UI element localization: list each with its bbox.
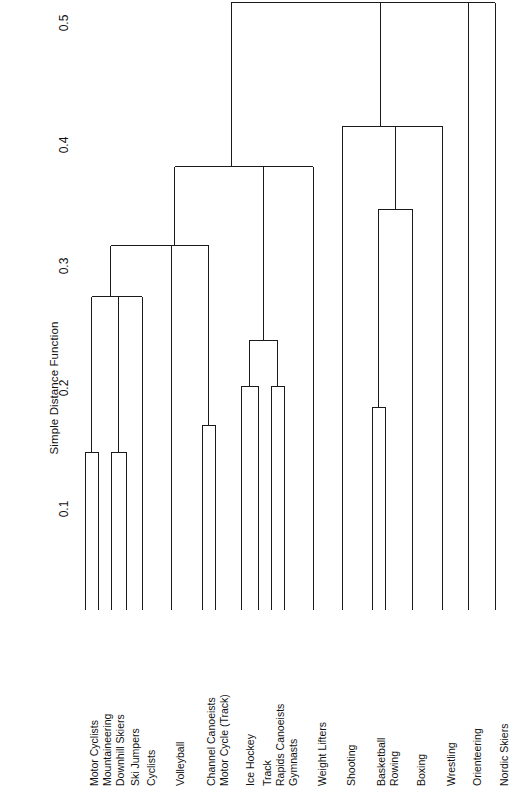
leaf-label: Ice Hockey <box>245 734 256 786</box>
leaf-label: Shooting <box>346 745 357 786</box>
y-tick-label-3: 0.2 <box>57 368 71 408</box>
leaf-label: Track <box>262 760 273 786</box>
y-tick-label-4: 0.1 <box>57 489 71 529</box>
leaf-label: Motor Cyclists <box>89 720 100 786</box>
dendrogram-canvas <box>0 0 514 792</box>
y-tick-label-0: 0.5 <box>57 3 71 43</box>
leaf-label: Channel Canoeists <box>206 697 217 786</box>
leaf-label: Weight Lifters <box>317 722 328 786</box>
leaf-label: Volleyball <box>175 742 186 786</box>
leaf-label: Boxing <box>416 754 427 786</box>
leaf-label: Wrestling <box>446 742 457 786</box>
leaf-label: Rapids Canoeists <box>275 704 286 786</box>
dendrogram-lines <box>85 3 495 611</box>
leaf-label: Motor Cycle (Track) <box>219 694 230 786</box>
leaf-label: Cyclists <box>146 750 157 786</box>
leaf-label: Mountaineering <box>102 714 113 786</box>
leaf-label: Gymnasts <box>288 739 299 786</box>
leaf-label: Basketball <box>376 738 387 786</box>
leaf-label: Rowing <box>389 751 400 786</box>
leaf-label: Ski Jumpers <box>130 728 141 786</box>
y-tick-label-2: 0.3 <box>57 246 71 286</box>
leaf-label: Orienteering <box>472 728 483 786</box>
leaf-label: Nordic Skiers <box>499 724 510 786</box>
dendrogram-figure: Simple Distance Function 0.5 0.4 0.3 0.2… <box>0 0 514 792</box>
leaf-label: Downhill Skiers <box>115 714 126 786</box>
y-tick-label-1: 0.4 <box>57 125 71 165</box>
